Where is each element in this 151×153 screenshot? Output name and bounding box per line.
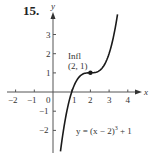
- y-axis-label: y: [50, 1, 55, 11]
- point-label: (2, 1): [68, 61, 88, 71]
- y-tick-label: 3: [46, 30, 51, 40]
- x-axis-label: x: [143, 87, 148, 97]
- infl-label: Infl: [68, 51, 81, 61]
- problem-number: 15.: [23, 3, 39, 18]
- inflection-point: [88, 71, 92, 75]
- y-tick-labels: 3 2 1 −1 −2: [39, 30, 51, 136]
- y-tick-label: 1: [46, 68, 51, 78]
- x-axis-arrow-icon: [135, 90, 142, 95]
- figure: 15. y x −2 −1 0 1 2 3 4: [0, 0, 151, 153]
- x-tick-label: 4: [126, 95, 131, 105]
- x-tick-label: −2: [8, 95, 18, 105]
- x-tick-label: 1: [72, 95, 77, 105]
- x-tick-label: 2: [88, 95, 93, 105]
- x-tick-label: −1: [27, 95, 37, 105]
- x-tick-label: 0: [46, 95, 51, 105]
- y-tick-label: 2: [46, 49, 51, 59]
- x-tick-label: 3: [107, 95, 112, 105]
- chart-svg: 15. y x −2 −1 0 1 2 3 4: [0, 0, 151, 153]
- y-tick-label: −1: [39, 106, 49, 116]
- y-tick-label: −2: [39, 125, 49, 135]
- y-axis-arrow-icon: [51, 12, 56, 19]
- equation-label: y = (x − 2)3 + 1: [76, 125, 132, 136]
